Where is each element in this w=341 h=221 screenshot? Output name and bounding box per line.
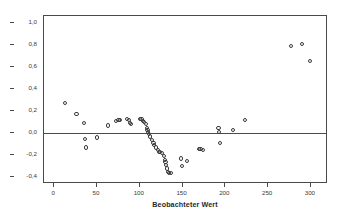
scatter-point <box>185 159 189 163</box>
scatter-point <box>231 128 235 132</box>
scatter-point <box>179 156 183 160</box>
y-tick-label: -0,2 <box>9 150 37 157</box>
scatter-point <box>118 118 122 122</box>
x-tick-label: 100 <box>126 189 152 196</box>
scatter-point <box>84 145 88 149</box>
x-tick-label: 200 <box>211 189 237 196</box>
scatter-point <box>82 121 86 125</box>
scatter-point <box>201 148 205 152</box>
scatter-point <box>83 137 87 141</box>
scatter-point <box>289 44 293 48</box>
x-tick-mark <box>139 183 140 187</box>
x-tick-mark <box>53 183 54 187</box>
scatter-point <box>63 101 67 105</box>
y-tick-label: -0,4 <box>9 172 37 179</box>
scatter-point <box>308 59 312 63</box>
zero-reference-line <box>44 133 326 134</box>
x-tick-label: 250 <box>254 189 280 196</box>
x-tick-mark <box>182 183 183 187</box>
x-tick-mark <box>267 183 268 187</box>
y-tick-label: 0,4 <box>9 84 37 91</box>
y-tick-label: 0,8 <box>9 40 37 47</box>
y-tick-label: 0,0 <box>9 128 37 135</box>
y-tick-label: 0,2 <box>9 106 37 113</box>
x-tick-label: 300 <box>297 189 323 196</box>
x-tick-label: 50 <box>83 189 109 196</box>
y-tick-label: 1,0 <box>9 18 37 25</box>
scatter-point <box>106 123 110 127</box>
scatter-point <box>243 118 247 122</box>
plot-area <box>43 15 327 183</box>
x-tick-label: 0 <box>40 189 66 196</box>
y-tick-label: 0,6 <box>9 62 37 69</box>
plot-inner <box>44 16 326 182</box>
scatter-point <box>300 42 304 46</box>
scatter-point <box>169 171 173 175</box>
scatter-point <box>218 141 222 145</box>
x-tick-mark <box>224 183 225 187</box>
x-tick-mark <box>310 183 311 187</box>
scatter-point <box>129 122 133 126</box>
scatter-point <box>74 112 78 116</box>
x-axis-title: Beobachteter Wert <box>43 200 327 209</box>
scatter-point <box>180 164 184 168</box>
scatter-point <box>95 135 99 139</box>
x-tick-label: 150 <box>169 189 195 196</box>
x-tick-mark <box>96 183 97 187</box>
qq-plot-chart: Beobachteter Normalwert Beobachteter Wer… <box>0 0 341 221</box>
